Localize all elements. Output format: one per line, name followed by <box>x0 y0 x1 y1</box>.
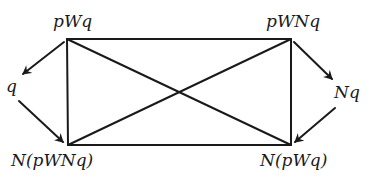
node-bottom-right: N(pWq) <box>260 152 327 169</box>
node-bottom-left: N(pWNq) <box>11 152 93 169</box>
node-top-right: pWNq <box>266 13 320 30</box>
arrow-Nq-to-NpWq <box>295 108 335 142</box>
arrow-q-to-NpWNq <box>19 101 63 142</box>
edge-left <box>67 39 68 145</box>
node-right: Nq <box>334 84 360 101</box>
node-top-left: pWq <box>53 13 92 30</box>
arrow-pWNq-to-Nq <box>294 42 332 79</box>
arrow-pWq-to-q <box>23 42 64 74</box>
diagram-canvas: pWq pWNq q Nq N(pWNq) N(pWq) <box>0 0 372 184</box>
node-left: q <box>6 78 17 95</box>
